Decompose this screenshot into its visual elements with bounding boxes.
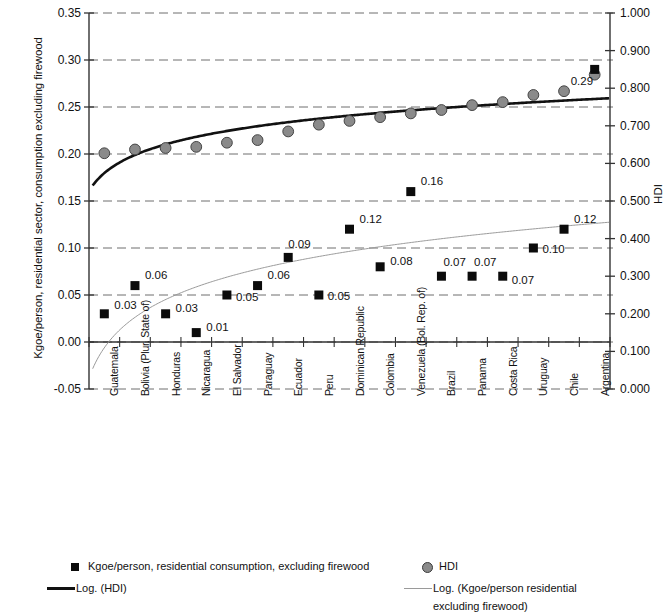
legend-label-log-kgoe-line1: Log. (Kgoe/person residential	[433, 582, 577, 594]
x-axis-category-label: Peru	[323, 375, 335, 396]
kgoe-value-label: 0.29	[571, 76, 593, 88]
kgoe-value-label: 0.08	[390, 256, 412, 268]
kgoe-data-point	[100, 309, 109, 318]
kgoe-value-label: 0.05	[328, 291, 350, 303]
kgoe-value-label: 0.12	[360, 214, 382, 226]
kgoe-data-point	[284, 253, 293, 262]
hdi-data-point	[283, 126, 294, 137]
y-axis-left-tick-label: 0.35	[35, 7, 81, 19]
legend-label-hdi: HDI	[439, 560, 458, 572]
x-axis-category-label: Nicaragua	[200, 350, 212, 396]
y-axis-right-tick-label: 0.300	[620, 270, 669, 282]
y-axis-left-tick-label: 0.10	[35, 242, 81, 254]
hdi-data-point	[160, 143, 171, 154]
kgoe-data-point	[498, 272, 507, 281]
hdi-data-point	[405, 108, 416, 119]
x-axis-category-label: Guatemala	[108, 346, 120, 396]
kgoe-data-point	[376, 262, 385, 271]
trendline-log-hdi	[93, 98, 609, 185]
kgoe-value-label: 0.03	[176, 303, 198, 315]
legend-label-kgoe: Kgoe/person, residential consumption, ex…	[88, 560, 369, 572]
kgoe-value-label: 0.12	[574, 214, 596, 226]
hdi-data-point	[467, 100, 478, 111]
kgoe-data-point	[560, 225, 569, 234]
legend-dark-line-icon	[47, 587, 75, 590]
kgoe-value-label: 0.03	[114, 300, 136, 312]
x-axis-category-label: Panama	[476, 358, 488, 396]
kgoe-data-point	[590, 65, 599, 74]
kgoe-value-label: 0.05	[236, 292, 258, 304]
hdi-data-point	[436, 105, 447, 116]
chart-figure: Kgoe/person, residential sector, consump…	[0, 0, 669, 616]
y-axis-left-tick-label: 0.20	[35, 148, 81, 160]
x-axis-category-label: Uruguay	[537, 358, 549, 396]
hdi-data-point	[313, 119, 324, 130]
y-axis-right-tick-label: 0.600	[620, 157, 669, 169]
x-axis-category-label: Ecuador	[292, 358, 304, 396]
legend-label-log-kgoe-line2: excluding firewood)	[433, 600, 528, 612]
hdi-data-point	[252, 135, 263, 146]
kgoe-value-label: 0.07	[474, 257, 496, 269]
kgoe-value-label: 0.16	[421, 176, 443, 188]
kgoe-data-point	[222, 291, 231, 300]
y-axis-left-tick-label: 0.30	[35, 54, 81, 66]
x-axis-category-label: Venezuela (Bol. Rep. of)	[415, 287, 427, 396]
kgoe-value-label: 0.06	[145, 270, 167, 282]
kgoe-value-label: 0.07	[443, 257, 465, 269]
y-axis-left-tick-label: -0.05	[35, 383, 81, 395]
hdi-data-point	[375, 112, 386, 123]
x-axis-category-label: El Salvador	[231, 345, 243, 397]
kgoe-data-point	[192, 328, 201, 337]
kgoe-data-point	[529, 244, 538, 253]
y-axis-right-tick-label: 0.000	[620, 383, 669, 395]
x-axis-category-label: Paraguay	[262, 353, 274, 396]
x-axis-category-label: Dominican Republic	[354, 306, 366, 396]
y-axis-right-tick-label: 0.100	[620, 345, 669, 357]
kgoe-data-point	[253, 281, 262, 290]
legend-label-log-hdi: Log. (HDI)	[76, 582, 127, 594]
y-axis-right-tick-label: 0.400	[620, 233, 669, 245]
y-axis-right-tick-label: 0.900	[620, 45, 669, 57]
y-axis-left-tick-label: 0.25	[35, 101, 81, 113]
hdi-data-point	[559, 86, 570, 97]
kgoe-data-point	[314, 291, 323, 300]
hdi-data-point	[222, 137, 233, 148]
kgoe-value-label: 0.10	[542, 244, 564, 256]
kgoe-data-point	[406, 187, 415, 196]
kgoe-value-label: 0.01	[206, 322, 228, 334]
x-axis-category-label: Honduras	[170, 352, 182, 396]
y-axis-right-tick-label: 1.000	[620, 7, 669, 19]
hdi-data-point	[344, 116, 355, 127]
x-axis-category-label: Colombia	[384, 353, 396, 396]
kgoe-value-label: 0.09	[288, 239, 310, 251]
kgoe-value-label: 0.06	[268, 270, 290, 282]
x-axis-category-label: Bolivia (Plur. State of)	[139, 300, 151, 396]
kgoe-data-point	[468, 272, 477, 281]
hdi-data-point	[191, 141, 202, 152]
legend-square-marker-icon	[71, 563, 79, 571]
x-axis-category-label: Brazil	[445, 371, 457, 396]
x-axis-category-label: Chile	[568, 373, 580, 396]
y-axis-right-tick-label: 0.800	[620, 82, 669, 94]
hdi-data-point	[99, 148, 110, 159]
y-axis-left-tick-label: 0.15	[35, 195, 81, 207]
y-axis-right-tick-label: 0.700	[620, 120, 669, 132]
kgoe-value-label: 0.07	[512, 275, 534, 287]
kgoe-data-point	[130, 281, 139, 290]
y-axis-right-tick-label: 0.500	[620, 195, 669, 207]
kgoe-data-point	[161, 309, 170, 318]
y-axis-left-tick-label: 0.05	[35, 289, 81, 301]
y-axis-right-tick-label: 0.200	[620, 308, 669, 320]
hdi-data-point	[130, 144, 141, 155]
legend-gray-line-icon	[404, 588, 432, 589]
legend-circle-marker-icon	[422, 562, 433, 573]
kgoe-data-point	[437, 272, 446, 281]
x-axis-category-label: Argentina	[599, 353, 611, 396]
y-axis-left-tick-label: 0.00	[35, 336, 81, 348]
x-axis-category-label: Costa Rica	[507, 347, 519, 396]
plot-canvas	[0, 0, 669, 616]
hdi-data-point	[528, 90, 539, 101]
kgoe-data-point	[345, 225, 354, 234]
hdi-data-point	[497, 97, 508, 108]
